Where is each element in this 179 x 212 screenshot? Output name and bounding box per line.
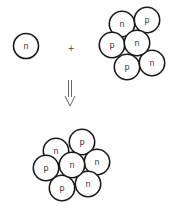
nucleon-label: p [124, 63, 129, 72]
nucleon-label: n [94, 158, 99, 167]
nucleon-label: p [43, 164, 48, 173]
nucleon-label: n [134, 39, 139, 48]
reactant-neutron: n [14, 34, 39, 59]
nucleon-label: p [109, 41, 114, 50]
nucleon: n [124, 30, 149, 55]
nucleon: p [134, 7, 159, 32]
nucleon-label: p [79, 138, 84, 147]
nucleon-label: p [59, 184, 64, 193]
nucleon-label: n [53, 147, 58, 156]
nucleon-label: n [85, 180, 90, 189]
reactant-nucleus: n p p p n n [99, 7, 164, 79]
nucleon-label: n [23, 42, 28, 51]
plus-sign: + [68, 44, 75, 53]
nucleon-label: n [69, 161, 74, 170]
reaction-diagram: n + n p p p n n n p p n p n n [0, 0, 179, 212]
product-nucleus: n p p n p n n [33, 129, 109, 200]
nucleon: p [99, 32, 124, 57]
reaction-arrow-icon [65, 80, 75, 106]
nucleon: n [59, 152, 84, 177]
nucleon: p [49, 175, 74, 200]
nucleon-label: n [149, 59, 154, 68]
nucleon: p [114, 54, 139, 79]
nucleon-label: p [144, 16, 149, 25]
nucleon-label: n [119, 20, 124, 29]
